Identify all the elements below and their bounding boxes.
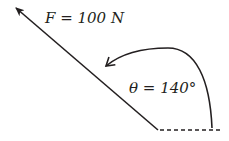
force-diagram: F = 100 N θ = 140° [0,0,229,141]
force-label: F = 100 N [44,9,125,27]
angle-label: θ = 140° [129,79,196,97]
